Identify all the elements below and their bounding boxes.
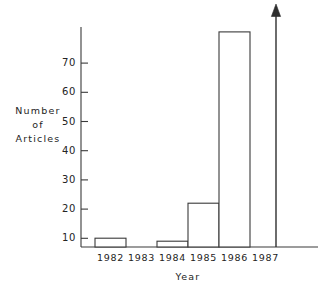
y-axis-title: Number of Articles	[15, 104, 60, 146]
bar-1986	[219, 32, 250, 247]
y-axis-title-line-2: of	[15, 118, 60, 132]
y-tick-label-70: 70	[54, 58, 76, 68]
y-axis-title-line-1: Number	[15, 104, 60, 118]
x-tick-label-1987: 1987	[252, 253, 279, 263]
y-tick-label-20: 20	[54, 204, 76, 214]
y-axis-title-line-3: Articles	[15, 132, 60, 146]
bar-1984	[157, 241, 188, 247]
y-tick-label-40: 40	[54, 146, 76, 156]
x-tick-label-1982: 1982	[97, 253, 124, 263]
x-tick-label-1983: 1983	[128, 253, 155, 263]
bar-1987-arrow-head	[271, 4, 280, 17]
bar-1985	[188, 203, 219, 247]
y-tick-label-60: 60	[54, 87, 76, 97]
x-axis-title: Year	[176, 272, 201, 282]
bar-1982	[95, 238, 126, 247]
x-tick-label-1985: 1985	[190, 253, 217, 263]
article-count-bar-chart: 70 60 50 40 30 20 10 1982 1983 1984 1985…	[0, 0, 335, 288]
x-tick-label-1984: 1984	[159, 253, 186, 263]
y-tick-label-10: 10	[54, 233, 76, 243]
x-tick-label-1986: 1986	[221, 253, 248, 263]
y-tick-label-30: 30	[54, 175, 76, 185]
